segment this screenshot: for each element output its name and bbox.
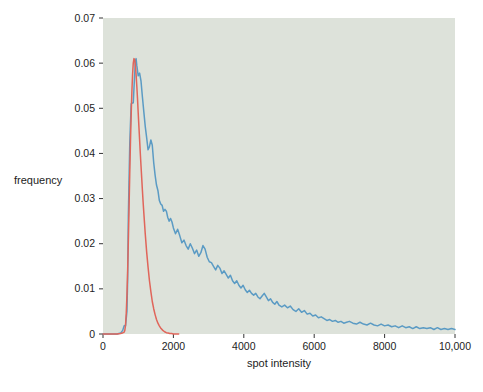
y-axis-tick-label: 0 xyxy=(89,328,95,340)
x-axis-tick-label: 10,000 xyxy=(439,340,471,352)
x-axis-tick-label: 6000 xyxy=(303,340,327,352)
y-axis-tick-label: 0.01 xyxy=(75,282,96,294)
y-axis-tick-label: 0.02 xyxy=(75,237,96,249)
x-axis-tick-label: 8000 xyxy=(373,340,397,352)
y-axis-tick-label: 0.03 xyxy=(75,192,96,204)
x-axis-tick-label: 4000 xyxy=(232,340,256,352)
y-axis-tick-label: 0.04 xyxy=(75,147,96,159)
y-axis-tick-label: 0.06 xyxy=(75,57,96,69)
y-axis-tick-label: 0.07 xyxy=(75,12,96,24)
x-axis-title: spot intensity xyxy=(247,357,312,369)
chart-figure: 00.010.020.030.040.050.060.07 0200040006… xyxy=(0,0,483,392)
y-axis-title: frequency xyxy=(14,174,63,186)
y-axis-tick-label: 0.05 xyxy=(75,102,96,114)
x-axis-tick-label: 2000 xyxy=(162,340,186,352)
histogram-chart: 00.010.020.030.040.050.060.07 0200040006… xyxy=(0,0,483,392)
x-axis-tick-label: 0 xyxy=(100,340,106,352)
